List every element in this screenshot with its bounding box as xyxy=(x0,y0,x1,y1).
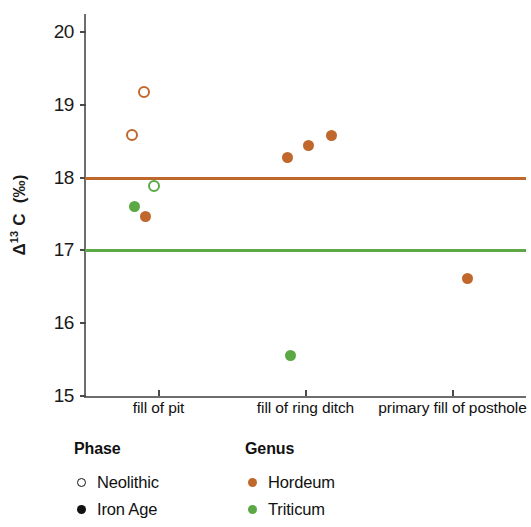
filled-circle-icon xyxy=(248,478,257,487)
data-point xyxy=(129,201,140,212)
legend-label: Iron Age xyxy=(97,500,157,519)
legend-item[interactable]: Iron Age xyxy=(74,496,159,523)
y-tick-label: 19 xyxy=(28,94,74,116)
legend-marker-icon xyxy=(245,505,259,514)
chart-legend: Phase NeolithicIron Age Genus HordeumTri… xyxy=(0,440,526,527)
y-tick-label: 17 xyxy=(28,239,74,261)
legend-items-genus: HordeumTriticum xyxy=(245,469,335,523)
legend-group-genus: Genus HordeumTriticum xyxy=(245,440,335,523)
legend-label: Hordeum xyxy=(268,473,335,492)
legend-marker-icon xyxy=(74,505,88,514)
y-tick-label-wrap: 16 xyxy=(0,312,74,334)
x-tick-label: primary fill of posthole xyxy=(343,399,531,417)
legend-item[interactable]: Neolithic xyxy=(74,469,159,496)
y-tick-label-wrap: 18 xyxy=(0,167,74,189)
y-tick-label-wrap: 19 xyxy=(0,94,74,116)
filled-circle-icon xyxy=(77,505,86,514)
data-point xyxy=(148,180,160,192)
data-point xyxy=(285,350,296,361)
y-tick-label-wrap: 20 xyxy=(0,21,74,43)
data-point xyxy=(138,86,150,98)
legend-group-phase: Phase NeolithicIron Age xyxy=(74,440,159,523)
legend-label: Neolithic xyxy=(97,473,159,492)
y-tick-label: 16 xyxy=(28,312,74,334)
legend-marker-icon xyxy=(245,478,259,487)
legend-marker-icon xyxy=(74,478,88,487)
data-point xyxy=(282,152,293,163)
filled-circle-icon xyxy=(248,505,257,514)
plot-area xyxy=(84,14,526,396)
data-point xyxy=(140,211,151,222)
legend-title-phase: Phase xyxy=(74,440,159,458)
y-tick-label: 20 xyxy=(28,21,74,43)
open-circle-icon xyxy=(77,478,86,487)
x-axis-line xyxy=(84,396,526,398)
legend-item[interactable]: Triticum xyxy=(245,496,335,523)
data-point xyxy=(126,129,138,141)
legend-item[interactable]: Hordeum xyxy=(245,469,335,496)
data-point xyxy=(303,140,314,151)
legend-label: Triticum xyxy=(268,500,325,519)
y-tick-label: 18 xyxy=(28,167,74,189)
y-tick-label-wrap: 17 xyxy=(0,239,74,261)
data-point xyxy=(462,273,473,284)
data-point xyxy=(326,130,337,141)
legend-title-genus: Genus xyxy=(245,440,335,458)
legend-items-phase: NeolithicIron Age xyxy=(74,469,159,523)
